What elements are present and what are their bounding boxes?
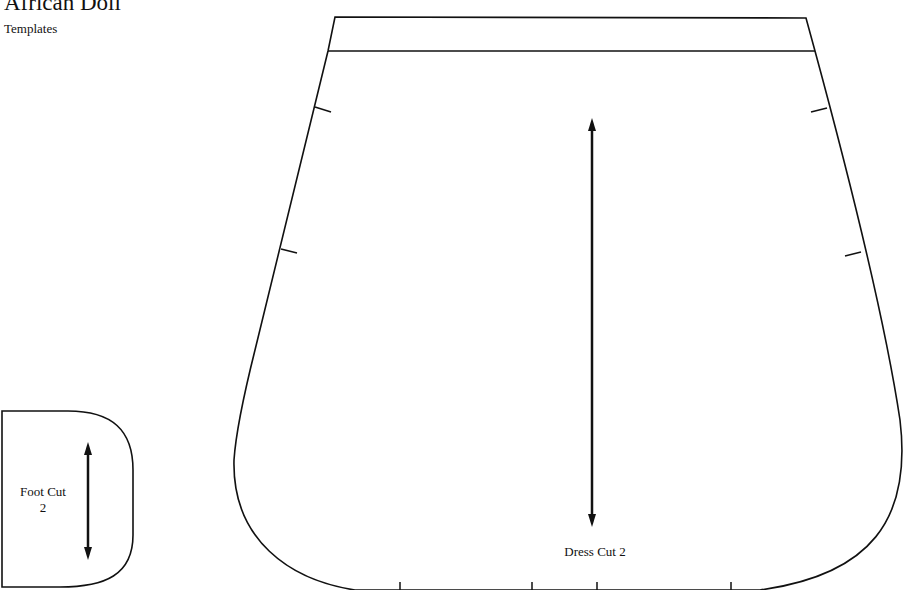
foot-label-line1: Foot Cut (8, 484, 78, 500)
pattern-canvas (0, 0, 905, 590)
foot-label: Foot Cut 2 (8, 484, 78, 516)
foot-label-line2: 2 (8, 500, 78, 516)
foot-grainline-arrow-icon (84, 442, 92, 560)
dress-notches (281, 107, 861, 590)
dress-label: Dress Cut 2 (540, 544, 650, 560)
dress-template (234, 17, 902, 590)
dress-grainline-arrow-icon (588, 118, 596, 527)
